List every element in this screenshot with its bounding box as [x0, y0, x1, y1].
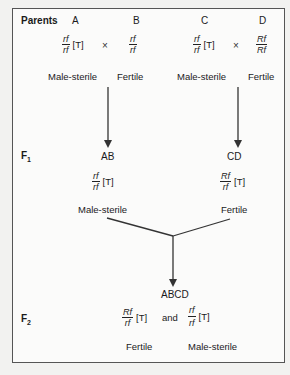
- arrow-head-ab-icon: [104, 140, 112, 148]
- arrow-head-cd-icon: [234, 140, 242, 148]
- cross-lines: [0, 0, 290, 375]
- merge-line-left: [107, 218, 173, 236]
- arrow-head-abcd-icon: [169, 279, 177, 287]
- merge-line-right: [173, 219, 230, 236]
